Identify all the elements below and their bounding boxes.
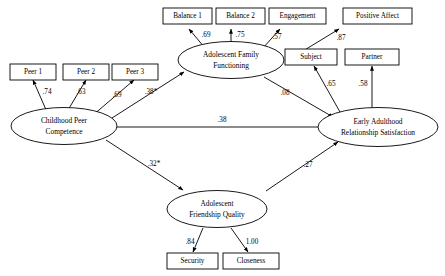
- observed-label-engagement: Engagement: [280, 12, 316, 20]
- observed-box-peer1: Peer 1: [10, 64, 56, 80]
- coef-label-peer-competence-peer3: .69: [113, 91, 122, 99]
- observed-box-closeness: Closeness: [223, 253, 279, 269]
- observed-box-positive-affect: Positive Affect: [343, 8, 412, 24]
- latent-label-relationship-satisfaction-line1: Early Adulthood: [353, 117, 402, 126]
- coef-label-friendship-quality-security: .84: [186, 238, 195, 246]
- latent-label-family-functioning-line2: Functioning: [213, 61, 249, 70]
- observed-label-peer3: Peer 3: [126, 68, 145, 76]
- latent-ellipse-peer-competence: Childhood Peer Competence: [11, 108, 117, 145]
- latent-label-friendship-quality-line1: Adolescent: [200, 199, 234, 208]
- observed-label-security: Security: [181, 257, 205, 265]
- loading-line-relationship-satisfaction-subject: [314, 66, 340, 112]
- coef-label-family-functioning-positive-affect: .87: [337, 34, 346, 42]
- coef-label-peer-competence-peer2: .63: [77, 88, 86, 96]
- latent-label-relationship-satisfaction-line2: Relationship Satisfaction: [341, 128, 415, 137]
- coef-label-family-functioning-engagement: .57: [273, 33, 282, 41]
- coef-label-path-peer-competence-friendship-quality: .32*: [148, 160, 161, 168]
- latent-ellipse-relationship-satisfaction: Early Adulthood Relationship Satisfactio…: [318, 108, 438, 147]
- sem-path-diagram: Peer 1 Peer 2 Peer 3 Balance 1 Balance 2…: [0, 0, 445, 276]
- observed-label-balance1: Balance 1: [173, 12, 202, 20]
- coef-label-path-peer-competence-relationship-satisfaction: .38: [218, 116, 227, 124]
- path-line-friendship-quality-relationship-satisfaction: [266, 142, 338, 191]
- observed-label-positive-affect: Positive Affect: [356, 12, 399, 20]
- observed-label-peer1: Peer 1: [24, 68, 43, 76]
- observed-box-security: Security: [167, 253, 218, 269]
- coef-label-family-functioning-balance2: .75: [236, 31, 245, 39]
- observed-box-engagement: Engagement: [269, 8, 326, 24]
- coef-label-friendship-quality-closeness: 1.00: [246, 238, 259, 246]
- latent-ellipse-family-functioning: Adolescent Family Functioning: [178, 42, 284, 79]
- observed-box-balance2: Balance 2: [216, 8, 265, 24]
- path-line-peer-competence-friendship-quality: [106, 140, 183, 190]
- coef-label-relationship-satisfaction-partner: .58: [359, 80, 368, 88]
- observed-box-subject: Subject: [285, 49, 337, 65]
- latent-label-peer-competence-line2: Competence: [46, 127, 84, 136]
- latent-label-peer-competence-line1: Childhood Peer: [41, 116, 88, 125]
- coef-label-family-functioning-balance1: .69: [202, 31, 211, 39]
- latent-ellipse-friendship-quality: Adolescent Friendship Quality: [167, 191, 267, 228]
- observed-box-peer3: Peer 3: [112, 64, 158, 80]
- coef-label-peer-competence-peer1: .74: [43, 88, 52, 96]
- observed-box-partner: Partner: [345, 49, 399, 65]
- latent-label-family-functioning-line1: Adolescent Family: [203, 50, 259, 59]
- loading-line-friendship-quality-security: [193, 228, 203, 252]
- coef-label-relationship-satisfaction-subject: .65: [327, 80, 336, 88]
- observed-label-balance2: Balance 2: [226, 12, 255, 20]
- loading-line-peer-competence-peer1: [33, 80, 47, 112]
- observed-box-peer2: Peer 2: [63, 64, 109, 80]
- observed-label-peer2: Peer 2: [77, 68, 96, 76]
- observed-label-closeness: Closeness: [237, 257, 266, 265]
- observed-box-balance1: Balance 1: [163, 8, 212, 24]
- observed-label-subject: Subject: [300, 53, 322, 61]
- path-line-family-functioning-relationship-satisfaction: [264, 77, 333, 117]
- coef-label-path-peer-competence-family-functioning: .38*: [145, 88, 158, 96]
- coef-label-path-friendship-quality-relationship-satisfaction: .27: [304, 161, 313, 169]
- coef-label-path-family-functioning-relationship-satisfaction: .08: [281, 89, 290, 97]
- latent-label-friendship-quality-line2: Friendship Quality: [189, 210, 245, 219]
- observed-label-partner: Partner: [362, 53, 383, 61]
- diagram-canvas: Peer 1 Peer 2 Peer 3 Balance 1 Balance 2…: [0, 0, 445, 276]
